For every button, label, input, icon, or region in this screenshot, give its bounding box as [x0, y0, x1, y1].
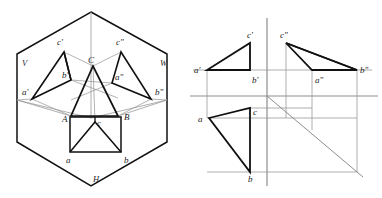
plane-label-H: H — [92, 174, 100, 184]
label-b-top-left: b — [124, 155, 129, 165]
plane-label-W: W — [160, 58, 168, 68]
label-c-top-left: c — [97, 118, 101, 128]
label-b-front-right: b' — [252, 75, 260, 85]
projector-c-down — [93, 66, 95, 122]
projector-right-horizon — [151, 99, 167, 100]
label-a-side-left: a" — [115, 72, 124, 82]
label-c-side-right: c" — [280, 30, 288, 40]
label-a-top-right: a — [198, 114, 203, 124]
label-b-side-left: b" — [155, 87, 164, 97]
front-view-triangle — [207, 43, 250, 70]
label-c-front-right: c' — [247, 30, 254, 40]
label-a-top-left: a — [66, 155, 71, 165]
label-b-side-right: b" — [360, 65, 369, 75]
label-a-front-left: a' — [22, 87, 30, 97]
mitre-diagonal-line — [267, 96, 363, 177]
label-c-front-left: c' — [57, 37, 64, 47]
label-B-space: B — [124, 112, 130, 122]
label-A-space: A — [61, 114, 68, 124]
label-C-space: C — [88, 55, 95, 65]
label-c-side-left: c" — [116, 37, 124, 47]
plane-label-V: V — [22, 58, 29, 68]
right-orthographic-view: c' c" a' b' a" b" a c b — [190, 18, 378, 186]
side-view-edge-c-b — [286, 43, 357, 70]
left-pictorial-view: V W H c' b' a' c" a" b" C A B c a b — [17, 12, 168, 186]
projection-box-hexagon — [17, 12, 167, 186]
projector-left-horizon — [17, 99, 32, 100]
projection-drawing-canvas: V W H c' b' a' c" a" b" C A B c a b — [0, 0, 382, 198]
top-projection-triangle-left — [70, 122, 121, 152]
geometry-figure: V W H c' b' a' c" a" b" C A B c a b — [0, 0, 382, 198]
label-b-front-left: b' — [62, 70, 70, 80]
label-c-top-right: c — [253, 107, 257, 117]
label-b-top-right: b — [248, 174, 253, 184]
projector-b-side — [118, 99, 151, 116]
label-a-side-right: a" — [315, 75, 324, 85]
label-a-front-right: a' — [194, 65, 202, 75]
